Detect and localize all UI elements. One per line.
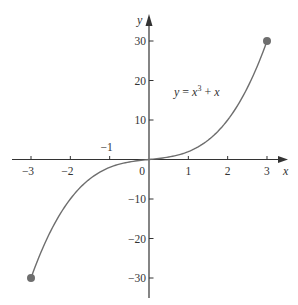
y-axis-arrow-icon	[146, 14, 153, 26]
x-tick-label: −3	[22, 165, 34, 177]
origin-label: 0	[139, 165, 145, 177]
y-tick-label: 10	[135, 114, 147, 126]
eq-x: x	[213, 85, 220, 99]
x-axis-ticks: −3−2−1123	[22, 141, 270, 177]
x-tick-label: −2	[61, 165, 73, 177]
y-tick-label: −10	[128, 193, 146, 205]
y-tick-label: −30	[128, 272, 146, 284]
function-equation-label: y = x3 + x	[173, 84, 220, 99]
x-tick-label: 1	[185, 165, 191, 177]
x-axis-arrow-icon	[278, 156, 288, 163]
eq-equals: =	[179, 85, 192, 99]
x-axis-label: x	[282, 164, 289, 178]
axes	[12, 14, 288, 298]
y-tick-label: −20	[128, 233, 146, 245]
y-tick-label: 30	[135, 35, 147, 47]
endpoint-dot-icon	[27, 274, 35, 282]
eq-plus: +	[201, 85, 214, 99]
y-tick-label: 20	[135, 75, 147, 87]
y-axis-label: y	[136, 13, 143, 27]
function-plot: −3−2−1123 −30−20−10102030 x y 0 y = x3 +…	[0, 0, 298, 305]
endpoint-dot-icon	[263, 37, 271, 45]
x-tick-label: 2	[225, 165, 231, 177]
x-tick-label: 3	[264, 165, 270, 177]
x-tick-label: −1	[101, 141, 113, 153]
